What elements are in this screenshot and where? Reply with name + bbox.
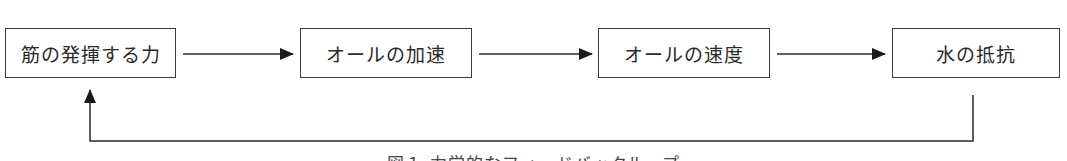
connector-layer: [0, 0, 1067, 161]
feedback-arrow-resistance-to-muscle: [90, 90, 973, 141]
figure-caption: 図１ 力学的なフィードバックループ: [0, 150, 1067, 161]
